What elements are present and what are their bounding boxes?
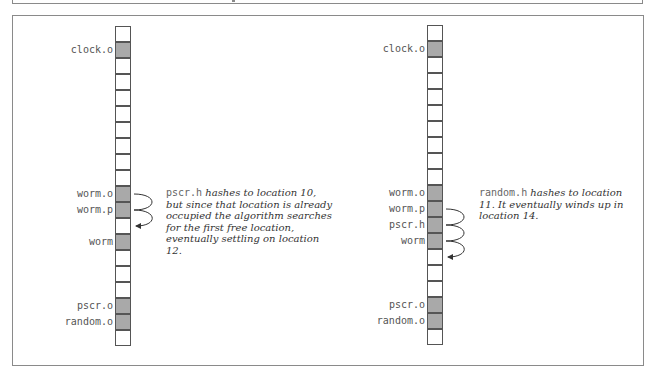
hash-slot	[115, 218, 131, 234]
slot-label: worm.p	[389, 201, 425, 217]
slot-label: worm	[89, 234, 113, 250]
hash-slot	[427, 249, 443, 265]
slot-label: worm	[401, 233, 425, 249]
hash-slot	[115, 314, 131, 330]
hash-slot	[427, 153, 443, 169]
hash-slot	[115, 90, 131, 106]
hash-slot	[115, 138, 131, 154]
slot-label: worm.o	[77, 186, 113, 202]
hash-slot	[115, 74, 131, 90]
slot-label: random.o	[377, 313, 425, 329]
slot-label: clock.o	[383, 41, 425, 57]
slot-label: clock.o	[71, 42, 113, 58]
hash-table-left	[115, 26, 131, 346]
slot-label: worm.p	[77, 202, 113, 218]
hash-slot	[115, 58, 131, 74]
hash-slot	[115, 202, 131, 218]
hash-slot	[115, 266, 131, 282]
right-annotation-code: random.h	[479, 187, 527, 198]
hash-slot	[427, 185, 443, 201]
hash-slot	[427, 297, 443, 313]
previous-figure-panel-edge	[12, 0, 643, 4]
hash-slot	[427, 233, 443, 249]
hash-slot	[427, 41, 443, 57]
left-annotation: pscr.h hashes to location 10, but since …	[166, 187, 336, 256]
hash-slot	[427, 89, 443, 105]
slot-label: random.o	[65, 314, 113, 330]
hash-slot	[115, 282, 131, 298]
left-annotation-code: pscr.h	[166, 187, 202, 198]
hash-table-right	[427, 25, 443, 345]
slot-label: worm.o	[389, 185, 425, 201]
hash-slot	[115, 26, 131, 42]
hash-slot	[427, 265, 443, 281]
hash-slot	[115, 250, 131, 266]
hash-slot	[427, 313, 443, 329]
slot-label: pscr.o	[77, 298, 113, 314]
hash-slot	[115, 234, 131, 250]
right-annotation: random.h hashes to location 11. It event…	[479, 187, 629, 222]
hash-slot	[115, 154, 131, 170]
hash-slot	[427, 25, 443, 41]
hash-slot	[427, 169, 443, 185]
slot-label: pscr.o	[389, 297, 425, 313]
hash-slot	[427, 217, 443, 233]
hash-slot	[427, 281, 443, 297]
hash-slot	[115, 106, 131, 122]
hash-slot	[115, 42, 131, 58]
hash-slot	[427, 137, 443, 153]
slot-label: pscr.h	[389, 217, 425, 233]
hash-slot	[115, 298, 131, 314]
hash-slot	[115, 330, 131, 346]
hash-slot	[427, 105, 443, 121]
hash-slot	[115, 186, 131, 202]
hash-slot	[427, 329, 443, 345]
hash-slot	[115, 122, 131, 138]
hash-slot	[115, 170, 131, 186]
hash-slot	[427, 121, 443, 137]
hash-slot	[427, 201, 443, 217]
cut-off-glyph	[232, 0, 235, 2]
hash-slot	[427, 73, 443, 89]
hash-slot	[427, 57, 443, 73]
